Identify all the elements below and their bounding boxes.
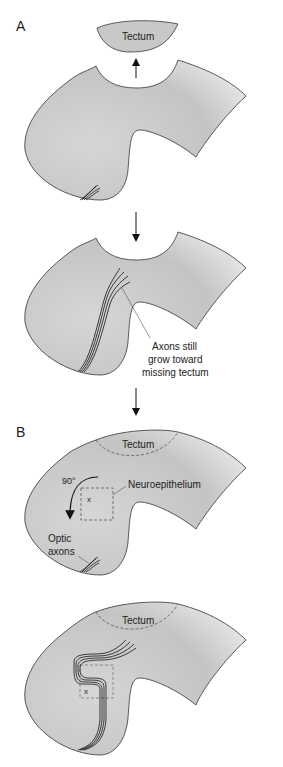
panel-letter-a: A [16, 18, 26, 34]
panel-letter-b: B [16, 424, 25, 440]
annotation-line-2: grow toward [148, 354, 202, 365]
x-marker-2: x [84, 687, 88, 696]
optic-label-1: Optic [48, 533, 71, 544]
neuroepithelium-label: Neuroepithelium [128, 479, 201, 490]
figure: A Tectum Axons still grow toward missing… [0, 0, 283, 767]
annotation-line-1: Axons still [152, 341, 197, 352]
tectum-label-b2: Tectum [122, 615, 154, 626]
brain-shape-a1 [25, 60, 246, 200]
tectum-label-b1: Tectum [122, 439, 154, 450]
tectum-label-a: Tectum [122, 31, 154, 42]
brain-shape-a2 [25, 232, 246, 375]
x-marker: x [87, 495, 91, 504]
optic-label-2: axons [48, 546, 75, 557]
rotation-label: 90° [62, 476, 76, 486]
annotation-line-3: missing tectum [142, 367, 209, 378]
